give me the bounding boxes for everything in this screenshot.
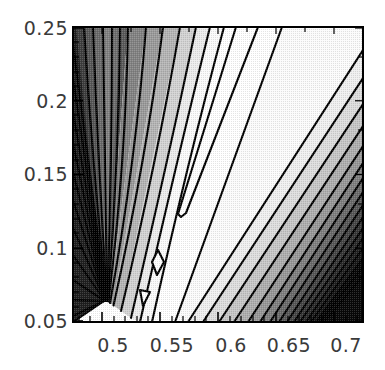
y-tick-label-3: 0.1 (36, 237, 68, 259)
x-tick-label-0: 0.5 (97, 334, 129, 356)
halftone-overlay (73, 27, 363, 322)
y-tick-label-4: 0.05 (24, 310, 68, 332)
x-tick-label-2: 0.6 (215, 334, 247, 356)
y-tick-label-0: 0.25 (24, 17, 68, 39)
y-tick-label-1: 0.2 (36, 90, 68, 112)
contour-plot-canvas: 0.25 0.2 0.15 0.1 0.05 0.5 0.55 0.6 0.65… (0, 0, 385, 370)
x-tick-label-4: 0.7 (330, 334, 362, 356)
y-tick-label-2: 0.15 (24, 163, 68, 185)
x-tick-label-3: 0.65 (267, 334, 311, 356)
contour-field (73, 27, 363, 322)
contour-plot-figure: 0.25 0.2 0.15 0.1 0.05 0.5 0.55 0.6 0.65… (0, 0, 385, 370)
x-tick-label-1: 0.55 (150, 334, 194, 356)
